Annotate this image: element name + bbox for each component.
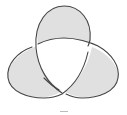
trefoil-knot-diagram [0, 0, 127, 115]
lobe-right [64, 47, 118, 97]
lobe-left [8, 47, 62, 97]
knot-lobes [8, 6, 118, 97]
bottom-mark [60, 111, 68, 112]
